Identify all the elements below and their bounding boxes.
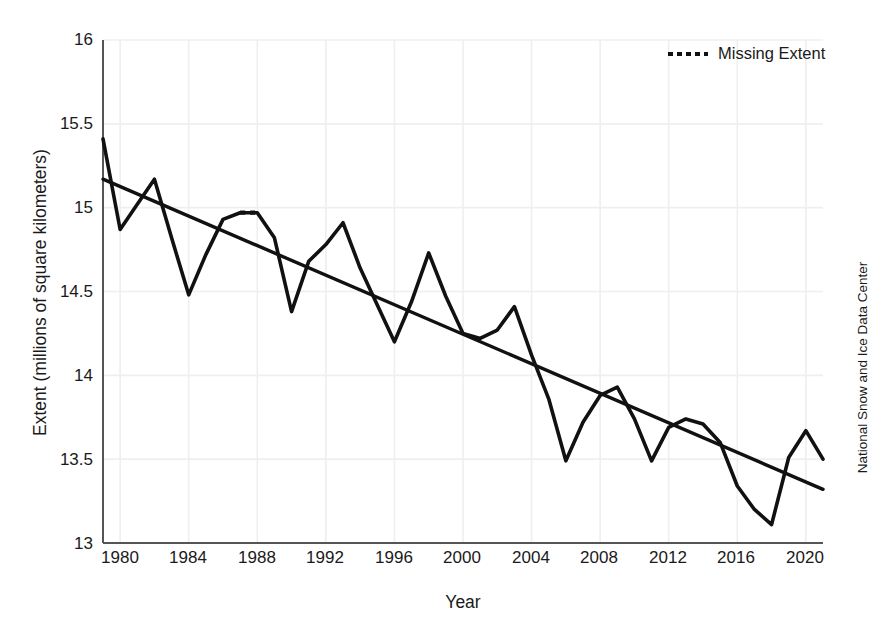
chart-title: Arctic sea ice extent xyxy=(0,0,892,4)
y-tick-label: 15 xyxy=(33,199,93,216)
x-tick-label: 1984 xyxy=(148,548,228,568)
legend-label-missing-extent: Missing Extent xyxy=(718,44,825,63)
x-tick-label: 2000 xyxy=(422,548,502,568)
legend-swatch-missing-extent xyxy=(668,52,708,56)
y-tick-label: 14 xyxy=(33,367,93,384)
gridlines xyxy=(103,40,823,543)
chart-legend: Missing Extent xyxy=(668,44,825,63)
x-tick-label: 1992 xyxy=(285,548,365,568)
y-tick-label: 13.5 xyxy=(33,451,93,468)
y-tick-label: 16 xyxy=(33,31,93,48)
x-axis-label: Year xyxy=(103,592,823,613)
plot-area xyxy=(0,0,892,642)
y-tick-label: 14.5 xyxy=(33,283,93,300)
chart-container: Arctic sea ice extent Extent (millions o… xyxy=(0,0,892,642)
x-tick-label: 2016 xyxy=(696,548,776,568)
y-tick-label: 15.5 xyxy=(33,115,93,132)
x-tick-label: 2020 xyxy=(765,548,845,568)
data-source-credit: National Snow and Ice Data Center xyxy=(855,203,870,533)
x-tick-label: 2008 xyxy=(559,548,639,568)
